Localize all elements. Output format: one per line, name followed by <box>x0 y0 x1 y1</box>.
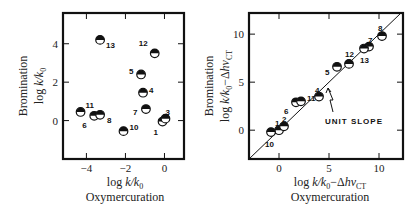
left-scatter-plot: −4−20024 134567810111213 Bromination log… <box>16 13 184 204</box>
point-label: 13 <box>106 41 115 50</box>
data-point: 10 <box>119 123 139 135</box>
point-label: 10 <box>130 123 139 132</box>
data-point: 3 <box>161 108 170 123</box>
x-tick-label: 0 <box>162 162 168 174</box>
point-label: 13 <box>360 56 369 65</box>
figure: −4−20024 134567810111213 Bromination log… <box>0 0 413 210</box>
point-label: 7 <box>368 36 373 45</box>
point-label: 6 <box>82 121 87 130</box>
right-y-title-line2: log k/k0−ΔhνCT <box>218 50 234 122</box>
data-point: 4 <box>315 86 324 101</box>
y-tick-label: 4 <box>53 38 59 50</box>
right-x-title-line2: Oxymercuration <box>291 190 370 204</box>
point-label: 7 <box>133 108 138 117</box>
right-data-points: 124567810111213 <box>265 24 386 149</box>
right-scatter-plot: 05100510 124567810111213 UNIT SLOPE Brom… <box>202 11 403 204</box>
data-point: 13 <box>96 36 116 50</box>
y-tick-label: 2 <box>53 76 59 88</box>
point-label: 10 <box>265 140 274 149</box>
x-tick-label: −4 <box>81 162 93 174</box>
data-point: 13 <box>360 44 370 64</box>
left-y-axis-title: Bromination log k/k0 <box>16 56 48 117</box>
data-point: 5 <box>325 62 341 76</box>
point-label: 11 <box>86 101 95 110</box>
left-x-title-line1: log k/k0 <box>107 175 143 191</box>
y-tick-label: 0 <box>239 124 245 136</box>
point-label: 5 <box>129 67 134 76</box>
data-point: 12 <box>139 39 159 57</box>
x-tick-label: −2 <box>120 162 132 174</box>
y-tick-label: 0 <box>53 115 59 127</box>
unit-slope-label: UNIT SLOPE <box>325 117 383 126</box>
point-label: 1 <box>154 128 159 137</box>
left-y-title-line1: Bromination <box>16 56 30 117</box>
left-plot-frame <box>63 13 184 159</box>
data-point: 5 <box>129 67 145 78</box>
right-y-title-line1: Bromination <box>202 56 216 117</box>
left-y-title-line2: log k/k0 <box>32 68 48 104</box>
y-tick-label: 10 <box>233 28 245 40</box>
point-label: 11 <box>307 94 316 103</box>
point-label: 5 <box>325 68 330 77</box>
data-point: 8 <box>96 111 112 125</box>
left-x-title-line2: Oxymercuration <box>86 190 165 204</box>
right-x-title-line1: log k/k0−ΔhνCT <box>294 175 366 191</box>
left-data-points: 134567810111213 <box>76 36 170 137</box>
point-label: 2 <box>282 115 287 124</box>
point-label: 12 <box>139 39 148 48</box>
point-label: 4 <box>149 86 154 95</box>
x-tick-label: 5 <box>326 162 332 174</box>
point-label: 4 <box>315 86 320 95</box>
right-y-axis-title: Bromination log k/k0−ΔhνCT <box>202 50 234 122</box>
data-point: 2 <box>280 115 289 130</box>
data-point: 7 <box>133 105 150 117</box>
left-axis-ticks: −4−20024 <box>53 13 185 174</box>
y-tick-label: 5 <box>239 76 245 88</box>
point-label: 8 <box>378 24 383 33</box>
x-tick-label: 10 <box>374 162 386 174</box>
point-label: 12 <box>345 50 354 59</box>
data-point: 8 <box>378 24 387 40</box>
data-point: 4 <box>139 86 154 97</box>
point-label: 8 <box>107 116 112 125</box>
point-label: 6 <box>284 107 289 116</box>
point-label: 3 <box>165 108 170 117</box>
x-tick-label: 0 <box>276 162 282 174</box>
